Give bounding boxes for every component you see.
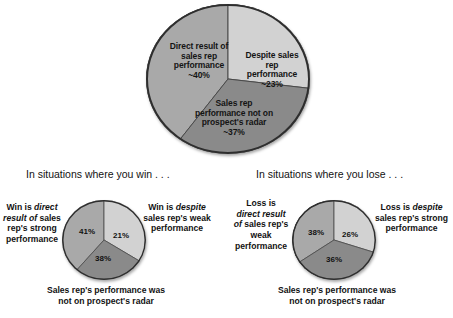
main-label-despite: Despite sales rep performance ~23% bbox=[241, 51, 303, 89]
lose-pct-not-on-radar: 36% bbox=[322, 255, 346, 264]
lose-left-part2: sales rep's weak performance bbox=[235, 219, 288, 250]
win-pct-not-on-radar: 38% bbox=[91, 254, 115, 263]
lose-left-part1: Loss is bbox=[246, 198, 276, 208]
lose-bottom-caption: Sales rep's performance was not on prosp… bbox=[252, 285, 422, 307]
lose-right-italic1: despite bbox=[412, 202, 442, 212]
main-label-not-on-radar: Sales rep performance not on prospect's … bbox=[182, 99, 286, 137]
win-pct-direct-result: 41% bbox=[75, 227, 99, 236]
lose-callout-direct-result: Loss is direct result of sales rep's wea… bbox=[228, 198, 294, 251]
win-callout-direct-result: Win is direct result of sales rep's stro… bbox=[2, 202, 62, 245]
sales-performance-figure: Direct result of sales rep performance ~… bbox=[0, 0, 453, 318]
lose-pie-chart: 38% 26% 36% bbox=[292, 200, 376, 280]
win-left-italic2: result of bbox=[3, 213, 37, 223]
win-pie-chart: 41% 21% 38% bbox=[62, 200, 146, 280]
lose-right-part1: Loss is bbox=[380, 202, 412, 212]
lose-right-part2: sales rep's strong performance bbox=[375, 213, 448, 234]
lose-caption-line2: not on prospect's radar bbox=[252, 296, 422, 307]
main-label-direct-result: Direct result of sales rep performance ~… bbox=[157, 42, 241, 80]
main-direct-value: ~40% bbox=[157, 71, 241, 81]
win-panel-heading: In situations where you win . . . bbox=[26, 168, 170, 180]
win-right-italic1: despite bbox=[176, 202, 206, 212]
win-bottom-caption: Sales rep's performance was not on prosp… bbox=[24, 285, 188, 307]
main-pie-chart: Direct result of sales rep performance ~… bbox=[146, 4, 310, 154]
main-radar-value: ~37% bbox=[182, 128, 286, 138]
lose-left-italic2: of bbox=[234, 219, 242, 229]
win-pie-graphic bbox=[62, 200, 146, 280]
win-left-italic1: direct bbox=[34, 202, 57, 212]
win-left-part1: Win is bbox=[6, 202, 34, 212]
lose-left-italic1: direct result bbox=[236, 209, 285, 219]
lose-panel-heading: In situations where you lose . . . bbox=[256, 168, 403, 180]
lose-pie-graphic bbox=[292, 200, 376, 280]
win-pct-despite: 21% bbox=[109, 231, 133, 240]
lose-pct-despite: 26% bbox=[338, 230, 362, 239]
lose-pct-direct-result: 38% bbox=[304, 228, 328, 237]
lose-callout-despite: Loss is despite sales rep's strong perfo… bbox=[372, 202, 451, 234]
lose-caption-line1: Sales rep's performance was bbox=[252, 285, 422, 296]
win-right-part1: Win is bbox=[148, 202, 176, 212]
win-callout-despite: Win is despite sales rep's weak performa… bbox=[140, 202, 214, 234]
win-caption-line2: not on prospect's radar bbox=[24, 296, 188, 307]
win-right-part2: sales rep's weak performance bbox=[143, 213, 211, 234]
win-caption-line1: Sales rep's performance was bbox=[24, 285, 188, 296]
main-despite-value: ~23% bbox=[241, 80, 303, 90]
